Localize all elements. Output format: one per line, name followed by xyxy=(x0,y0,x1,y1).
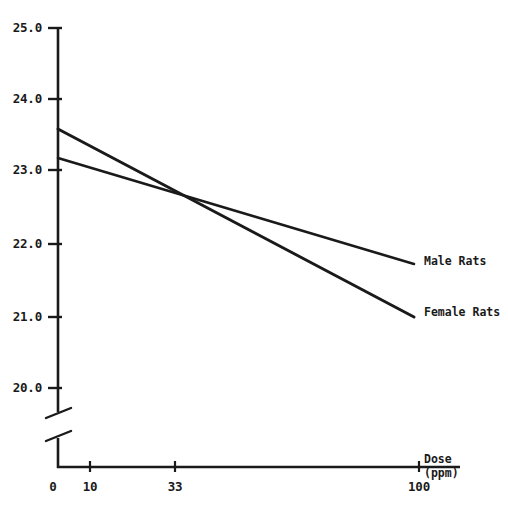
x-axis-tick-label-10: 10 xyxy=(83,481,98,494)
chart-container: 25.0 24.0 23.0 22.0 21.0 20.0 0 10 33 10… xyxy=(0,0,508,509)
series-label-female-rats: Female Rats xyxy=(424,307,500,319)
series-line-female-rats xyxy=(58,129,414,317)
y-axis-tick-label-24: 24.0 xyxy=(0,93,42,106)
y-axis-tick-label-22: 22.0 xyxy=(0,238,42,251)
x-axis-title: Dose (ppm) xyxy=(424,452,459,481)
y-axis-tick-label-21: 21.0 xyxy=(0,311,42,324)
y-axis-tick-label-20: 20.0 xyxy=(0,382,42,395)
y-axis-tick-label-25: 25.0 xyxy=(0,22,42,35)
series-line-male-rats xyxy=(58,158,414,264)
x-axis-title-line1: Dose xyxy=(424,452,452,466)
x-axis-tick-label-100: 100 xyxy=(408,481,430,494)
series-label-male-rats: Male Rats xyxy=(424,256,486,268)
x-axis-tick-label-33: 33 xyxy=(168,481,183,494)
x-axis-title-line2: (ppm) xyxy=(424,466,459,480)
y-axis-tick-label-23: 23.0 xyxy=(0,164,42,177)
x-axis-tick-label-0: 0 xyxy=(49,481,56,494)
